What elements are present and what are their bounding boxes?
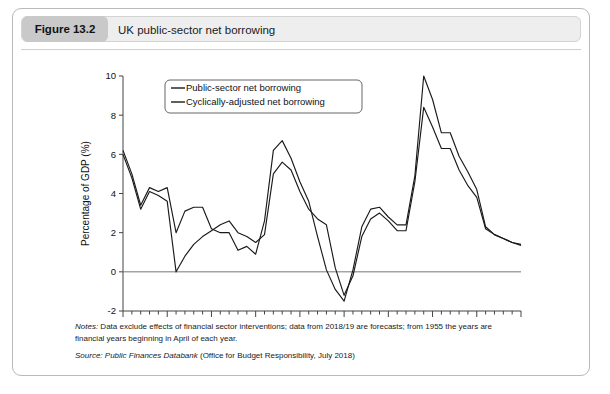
legend-label-2: Cyclically-adjusted net borrowing: [186, 96, 325, 107]
legend-label-1: Public-sector net borrowing: [186, 82, 301, 93]
y-tick-label: 2: [111, 227, 116, 238]
y-tick-label: 4: [111, 188, 116, 199]
notes-text-1: Data exclude effects of financial sector…: [98, 322, 492, 331]
figure-header-bar: Figure 13.2 UK public-sector net borrowi…: [21, 16, 581, 42]
series-line-2: [123, 107, 521, 295]
y-tick-label: 10: [105, 70, 116, 81]
notes-line-2: financial years beginning in April of ea…: [75, 333, 545, 345]
figure-number-badge: Figure 13.2: [22, 16, 108, 42]
notes-line-1: Notes: Data exclude effects of financial…: [75, 321, 545, 333]
figure-title: UK public-sector net borrowing: [118, 17, 275, 43]
source-rest: (Office for Budget Responsibility, July …: [198, 351, 355, 360]
y-axis-label: Percentage of GDP (%): [80, 141, 91, 246]
notes-label: Notes:: [75, 322, 98, 331]
figure-card: Figure 13.2 UK public-sector net borrowi…: [12, 8, 590, 376]
source-title: Public Finances Databank: [103, 351, 198, 360]
source-label: Source:: [75, 351, 103, 360]
y-tick-label: -2: [108, 305, 116, 316]
chart-plot-area: -202468101975198019851990199520002005201…: [13, 49, 589, 319]
y-tick-label: 8: [111, 110, 116, 121]
y-tick-label: 0: [111, 266, 116, 277]
figure-notes: Notes: Data exclude effects of financial…: [75, 321, 545, 362]
line-chart: -202468101975198019851990199520002005201…: [13, 49, 589, 319]
y-tick-label: 6: [111, 149, 116, 160]
figure-source: Source: Public Finances Databank (Office…: [75, 350, 545, 362]
